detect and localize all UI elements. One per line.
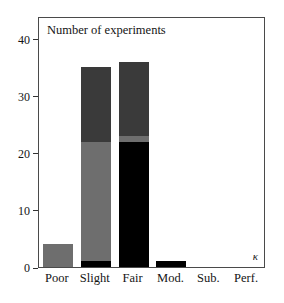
bar-segment [81,67,111,141]
y-axis-tick-label: 10 [0,205,30,217]
x-axis-label-perf: Perf. [227,271,265,286]
bar-poor [43,244,73,267]
bar-segment [156,261,186,267]
x-axis-label-sub: Sub. [189,271,227,286]
bar-segment [43,244,73,267]
x-axis-label-fair: Fair [114,271,152,286]
bar-slight [81,67,111,267]
bar-segment [81,261,111,267]
bar-mod [156,261,186,267]
bar-segment [81,142,111,262]
plot-area: Number of experiments κ [38,17,265,268]
bars-layer [39,18,264,267]
kappa-axis-symbol: κ [253,250,258,262]
bar-segment [119,62,149,136]
y-axis-tick-label: 30 [0,91,30,103]
y-axis-tick-label: 0 [0,262,30,274]
bar-segment [119,142,149,268]
bar-fair [119,62,149,267]
bar-segment [119,136,149,142]
y-axis-tick-label: 20 [0,148,30,160]
x-axis-labels: PoorSlightFairMod.Sub.Perf. [38,271,265,291]
chart-figure: 010203040 Number of experiments κ PoorSl… [0,0,284,303]
x-axis-label-poor: Poor [38,271,76,286]
x-axis-label-mod: Mod. [152,271,190,286]
y-axis-tick-label: 40 [0,34,30,46]
x-axis-label-slight: Slight [76,271,114,286]
